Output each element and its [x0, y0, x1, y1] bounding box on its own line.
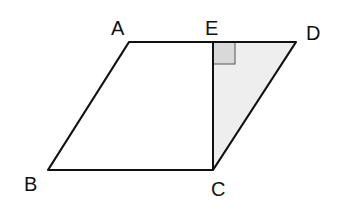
- label-B: B: [24, 173, 37, 195]
- geometry-diagram: A E D B C: [0, 0, 347, 216]
- label-A: A: [111, 17, 125, 39]
- label-C: C: [211, 178, 225, 200]
- label-E: E: [205, 17, 218, 39]
- label-D: D: [306, 22, 320, 44]
- right-angle-marker: [213, 42, 235, 64]
